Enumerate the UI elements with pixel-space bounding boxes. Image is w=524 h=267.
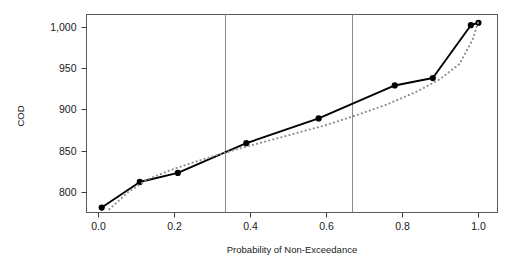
x-tick-label: 0.2 [167, 220, 182, 232]
data-point-marker [392, 82, 398, 88]
x-tick-label: 1.0 [471, 220, 486, 232]
data-point-marker [99, 204, 105, 210]
chart-container: 8008509009501,000 0.00.20.40.60.81.0 Pro… [0, 0, 524, 267]
y-axis-group: 8008509009501,000 [50, 21, 86, 198]
reference-lines-group [226, 15, 353, 213]
x-tick-label: 0.8 [395, 220, 410, 232]
x-tick-label: 0.0 [91, 220, 106, 232]
x-tick-label: 0.6 [319, 220, 334, 232]
y-tick-label: 950 [59, 62, 77, 74]
y-tick-label: 800 [59, 186, 77, 198]
plot-frame [87, 15, 498, 213]
data-point-marker [468, 22, 474, 28]
x-axis-title: Probability of Non-Exceedance [227, 244, 357, 255]
x-axis-group: 0.00.20.40.60.81.0 [91, 213, 486, 232]
y-axis-title: COD [15, 105, 26, 126]
cod-probability-plot: 8008509009501,000 0.00.20.40.60.81.0 Pro… [0, 0, 524, 267]
data-series-layer [99, 20, 482, 211]
y-tick-label: 850 [59, 145, 77, 157]
data-point-marker [430, 75, 436, 81]
y-tick-label: 1,000 [50, 21, 76, 33]
x-tick-label: 0.4 [243, 220, 258, 232]
data-point-marker [316, 115, 322, 121]
data-point-marker [175, 170, 181, 176]
series-line-fitted [109, 21, 478, 209]
series-line-empirical [102, 23, 479, 208]
y-tick-label: 900 [59, 103, 77, 115]
